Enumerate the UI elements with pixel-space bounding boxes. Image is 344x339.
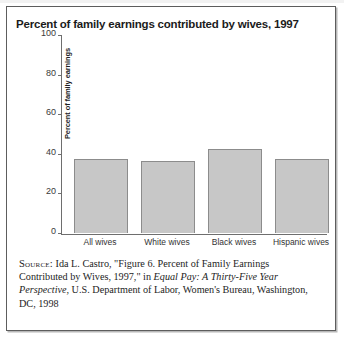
table-row[interactable] [141,161,195,233]
x-tick-label: All wives [62,237,138,247]
table-row[interactable] [74,159,128,233]
y-tick-mark [58,35,61,36]
y-tick-label: 100 [30,29,56,38]
x-tick-label: Black wives [196,237,272,247]
y-tick-label: 0 [30,227,56,236]
x-axis-line [61,234,327,235]
y-tick-mark [58,154,61,155]
table-row[interactable] [275,159,329,233]
y-tick-mark [58,193,61,194]
y-tick-mark [58,114,61,115]
source-label: Source: [19,258,53,269]
bars-layer [62,33,327,234]
x-axis-tick-labels: All wives White wives Black wives Hispan… [61,237,327,251]
y-tick-label: 20 [30,187,56,196]
x-tick-label: White wives [129,237,205,247]
x-tick-label: Hispanic wives [263,237,339,247]
y-tick-label: 80 [30,69,56,78]
y-tick-label: 60 [30,108,56,117]
figure-frame: Percent of family earnings contributed b… [6,6,336,331]
y-tick-mark [58,233,61,234]
source-note: Source: Ida L. Castro, "Figure 6. Percen… [19,257,311,310]
y-tick-mark [58,75,61,76]
page-title: Percent of family earnings contributed b… [16,18,326,30]
y-axis-tick-labels: 100 80 60 40 20 0 [30,33,56,233]
chart-plot-area: Percent of family earnings 100 80 60 40 … [16,33,328,248]
table-row[interactable] [208,149,262,233]
scan-edge [0,0,344,3]
y-tick-label: 40 [30,148,56,157]
